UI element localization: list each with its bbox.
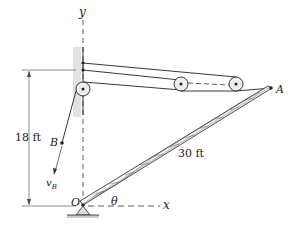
- point-A-label: A: [276, 84, 284, 95]
- vertical-post: [73, 47, 81, 117]
- point-B: [60, 141, 64, 145]
- dim-arrow-top-icon: [27, 71, 31, 77]
- pulley-wall-hub: [82, 88, 85, 91]
- velocity-label: vB: [46, 178, 57, 191]
- pulley-link-dashed: [188, 83, 229, 85]
- velocity-subscript: B: [52, 183, 57, 191]
- y-axis-label: y: [79, 6, 86, 18]
- boom: [80, 86, 272, 205]
- velocity-arrow-head-icon: [53, 168, 57, 175]
- velocity-arrow-line: [55, 146, 62, 172]
- point-O-label: O: [71, 197, 80, 208]
- crane-diagram: y x A B O θ vB 18 ft 30 ft: [0, 0, 301, 235]
- diagram-drawing: [0, 0, 301, 235]
- cable-lower: [84, 82, 181, 90]
- height-dimension-label: 18 ft: [15, 132, 41, 143]
- pulley-right-hub: [235, 83, 238, 86]
- cable-top: [83, 63, 236, 77]
- x-axis-label: x: [163, 199, 170, 211]
- ground: [67, 215, 99, 218]
- point-B-label: B: [50, 137, 58, 148]
- angle-label: θ: [111, 196, 118, 207]
- point-A: [269, 86, 273, 90]
- boom-length-label: 30 ft: [178, 148, 204, 159]
- anchor-point-1: [81, 61, 84, 64]
- cable-upper: [83, 70, 180, 80]
- dim-arrow-bottom-icon: [27, 199, 31, 205]
- anchor-point-2: [81, 68, 84, 71]
- pulley-middle-hub: [180, 83, 183, 86]
